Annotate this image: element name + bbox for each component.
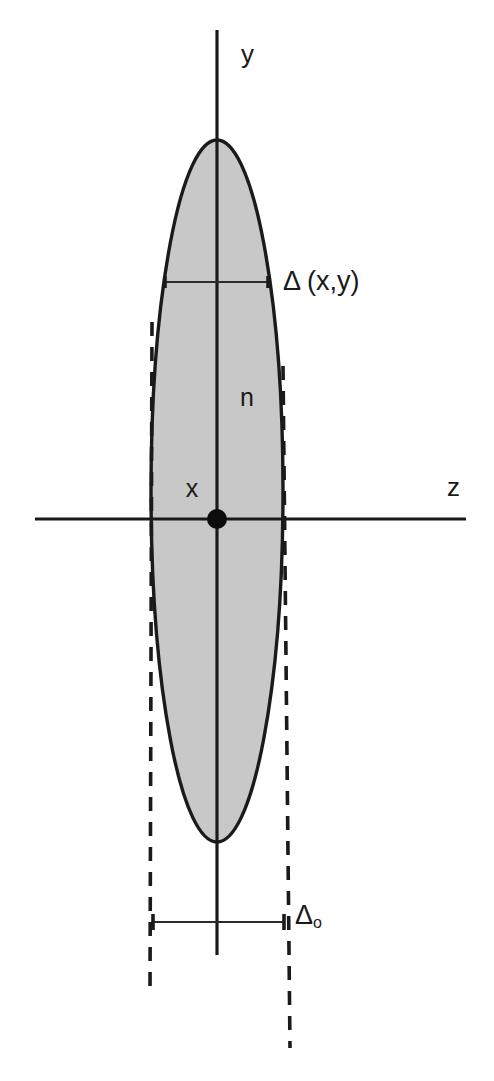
z-axis-label: z	[447, 472, 460, 502]
origin-dot	[207, 509, 227, 529]
diagram-canvas: y z n x Δ (x,y) Δo	[0, 0, 494, 1081]
delta-0-label: Δo	[295, 900, 322, 931]
nucleus-cross-section-diagram: y z n x Δ (x,y) Δo	[0, 0, 494, 1081]
position-label: x	[186, 474, 199, 502]
right-tangent-dashed-line	[283, 366, 290, 1048]
y-axis-label: y	[241, 39, 254, 69]
normal-label: n	[240, 383, 254, 411]
delta-0-symbol: Δ	[295, 900, 313, 930]
delta-xy-label: Δ (x,y)	[283, 266, 360, 296]
delta-0-subscript: o	[313, 914, 322, 931]
left-tangent-dashed-line	[150, 322, 152, 992]
